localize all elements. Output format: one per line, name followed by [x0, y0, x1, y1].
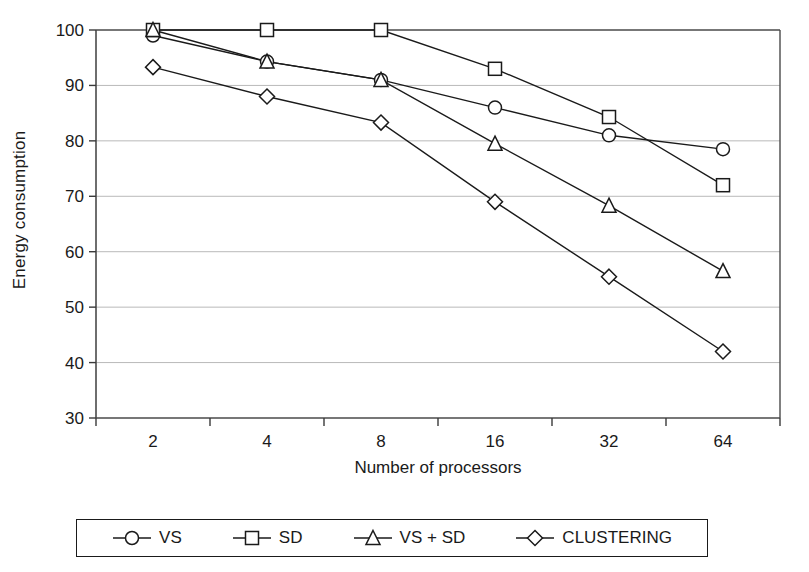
- series-vs-sd: [153, 30, 723, 271]
- legend-item-label: VS + SD: [400, 528, 466, 548]
- data-point-marker: [146, 60, 161, 75]
- data-point-marker: [602, 269, 617, 284]
- series-markers-clustering: [146, 60, 731, 359]
- legend-item-vs-sd[interactable]: VS + SD: [353, 528, 466, 548]
- data-point-marker: [260, 89, 275, 104]
- series-line: [153, 30, 723, 271]
- data-point-marker: [603, 129, 616, 142]
- series-vs: [153, 36, 723, 150]
- y-axis-tick-label: 70: [65, 187, 84, 206]
- data-point-marker: [489, 62, 502, 75]
- x-axis-tick-label: 2: [148, 432, 157, 450]
- x-axis-tick-label: 32: [600, 432, 619, 450]
- y-axis-tick-label: 60: [65, 243, 84, 262]
- y-axis-tick-label: 40: [65, 354, 84, 373]
- series-markers-vs-sd: [146, 23, 730, 278]
- data-point-marker: [716, 264, 730, 278]
- legend-item-clustering[interactable]: CLUSTERING: [515, 528, 672, 548]
- x-axis-tick-label: 64: [714, 432, 733, 450]
- data-point-marker: [717, 179, 730, 192]
- circle-marker: [112, 528, 152, 548]
- series-line: [153, 36, 723, 150]
- legend-item-label: CLUSTERING: [562, 528, 672, 548]
- data-point-marker: [488, 136, 502, 150]
- data-point-marker: [245, 532, 258, 545]
- data-point-marker: [716, 344, 731, 359]
- x-axis-tick-label: 16: [486, 432, 505, 450]
- data-point-marker: [602, 198, 616, 212]
- legend-item-label: SD: [279, 528, 303, 548]
- legend-item-label: VS: [159, 528, 182, 548]
- chart-figure: Energy consumption 304050607080901002481…: [0, 0, 809, 572]
- x-axis-tick-label: 4: [262, 432, 271, 450]
- data-point-marker: [489, 101, 502, 114]
- data-point-marker: [603, 111, 616, 124]
- series-line: [153, 67, 723, 351]
- series-clustering: [153, 67, 723, 351]
- triangle-marker: [353, 528, 393, 548]
- data-point-marker: [126, 532, 139, 545]
- x-axis-title: Number of processors: [96, 458, 780, 478]
- diamond-marker: [515, 528, 555, 548]
- square-marker: [232, 528, 272, 548]
- data-point-marker: [528, 531, 543, 546]
- y-axis-tick-label: 100: [56, 21, 84, 40]
- data-point-marker: [375, 24, 388, 37]
- y-axis-tick-label: 30: [65, 409, 84, 428]
- legend-item-vs[interactable]: VS: [112, 528, 182, 548]
- y-axis-tick-label: 90: [65, 76, 84, 95]
- x-axis-tick-label: 8: [376, 432, 385, 450]
- data-point-marker: [374, 115, 389, 130]
- data-point-marker: [261, 24, 274, 37]
- data-point-marker: [717, 143, 730, 156]
- y-axis-tick-label: 50: [65, 298, 84, 317]
- chart-legend: VSSDVS + SDCLUSTERING: [76, 519, 708, 557]
- plot-area: 30405060708090100248163264: [0, 0, 809, 450]
- y-axis-tick-label: 80: [65, 132, 84, 151]
- legend-item-sd[interactable]: SD: [232, 528, 303, 548]
